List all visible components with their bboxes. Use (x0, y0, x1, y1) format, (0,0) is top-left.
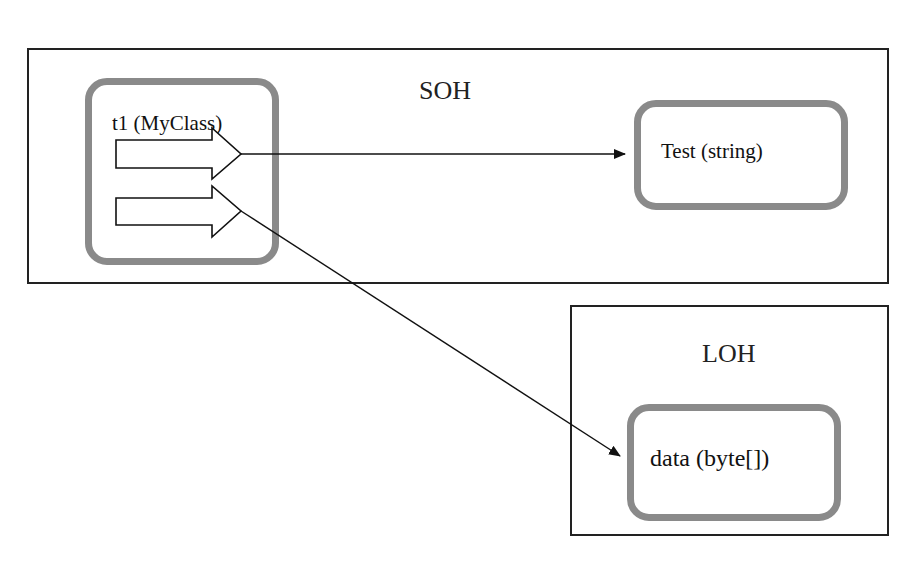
reference-arrows (0, 0, 906, 562)
field-pointer-icon-1 (116, 128, 241, 179)
field-pointer-icon-2 (116, 186, 241, 237)
reference-arrow-to-data (241, 211, 620, 456)
